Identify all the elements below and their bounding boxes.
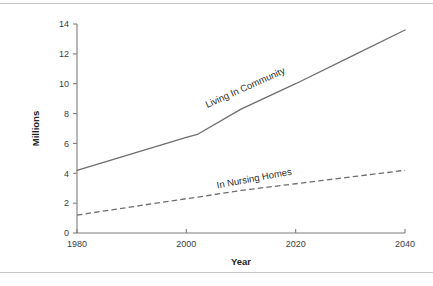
x-axis-tick-label: 2000 <box>176 239 196 249</box>
y-axis-tick-label: 10 <box>59 79 69 89</box>
series-label-living-in-community: Living In Community <box>203 65 286 110</box>
chart-series <box>77 30 405 215</box>
x-axis-title: Year <box>231 256 251 266</box>
chart-axes <box>73 24 405 233</box>
x-axis-tick-label: 1980 <box>67 239 87 249</box>
series-label-in-nursing-homes: In Nursing Homes <box>216 166 293 191</box>
y-axis-ticks <box>73 24 77 233</box>
y-axis-title: Millions <box>30 111 41 146</box>
y-axis-tick-label: 2 <box>64 198 69 208</box>
page-rule-top <box>0 3 433 4</box>
chart-canvas: 02468101214 1980200020202040 Millions Ye… <box>0 8 433 266</box>
series-line-living-in-community <box>77 30 405 170</box>
y-axis-tick-label: 8 <box>64 109 69 119</box>
chart-page: 02468101214 1980200020202040 Millions Ye… <box>0 0 433 286</box>
y-axis-tick-label: 14 <box>59 19 69 29</box>
chart-annotations: Living In Community In Nursing Homes <box>203 65 292 191</box>
x-axis-ticks <box>77 229 405 233</box>
y-axis-tick-labels: 02468101214 <box>59 19 69 238</box>
x-axis-tick-label: 2020 <box>286 239 306 249</box>
x-axis-tick-label: 2040 <box>395 239 415 249</box>
y-axis-tick-label: 4 <box>64 169 69 179</box>
y-axis-tick-label: 6 <box>64 139 69 149</box>
line-chart-figure: 02468101214 1980200020202040 Millions Ye… <box>0 8 433 266</box>
y-axis-tick-label: 12 <box>59 49 69 59</box>
y-axis-tick-label: 0 <box>64 228 69 238</box>
x-axis-tick-labels: 1980200020202040 <box>67 239 415 249</box>
page-rule-bottom <box>0 272 433 273</box>
